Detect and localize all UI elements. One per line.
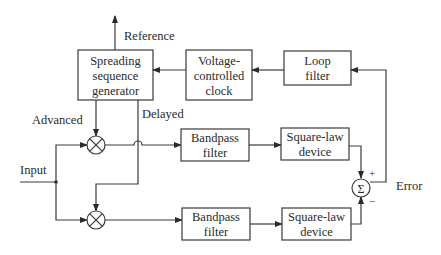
upper-square-law-device-block: Square-law device bbox=[281, 128, 349, 160]
delayed-wire bbox=[96, 100, 138, 211]
block-label: filter bbox=[305, 69, 330, 83]
advanced-label: Advanced bbox=[32, 113, 83, 127]
block-label: filter bbox=[203, 146, 228, 160]
loop-filter-block: Loop filter bbox=[284, 51, 351, 85]
block-label: filter bbox=[204, 225, 229, 239]
block-label: clock bbox=[205, 84, 233, 98]
delayed-label: Delayed bbox=[142, 107, 184, 121]
sigma-symbol: Σ bbox=[358, 182, 365, 196]
lower-square-to-sum bbox=[351, 197, 361, 224]
block-label: Bandpass bbox=[191, 131, 239, 145]
reference-output: Reference bbox=[115, 16, 175, 50]
block-label: generator bbox=[92, 84, 140, 98]
upper-mixer-to-bpf bbox=[105, 141, 181, 145]
lower-square-law-device-block: Square-law device bbox=[282, 208, 351, 240]
lower-multiplier-icon bbox=[87, 211, 105, 229]
plus-sign: + bbox=[369, 167, 375, 179]
upper-bandpass-filter-block: Bandpass filter bbox=[181, 129, 249, 161]
block-label: device bbox=[300, 225, 333, 239]
minus-sign: − bbox=[369, 195, 375, 207]
block-label: Spreading bbox=[90, 54, 141, 68]
error-feedback-wire bbox=[351, 70, 386, 182]
block-label: sequence bbox=[93, 69, 139, 83]
upper-multiplier-icon bbox=[87, 136, 105, 154]
reference-label: Reference bbox=[124, 29, 175, 43]
block-label: Voltage- bbox=[198, 54, 240, 68]
voltage-controlled-clock-block: Voltage- controlled clock bbox=[186, 50, 252, 100]
input-to-upper-mixer bbox=[56, 145, 87, 182]
input-label: Input bbox=[20, 163, 47, 177]
error-label: Error bbox=[396, 179, 423, 193]
block-label: controlled bbox=[194, 69, 245, 83]
spreading-sequence-generator-block: Spreading sequence generator bbox=[78, 50, 153, 100]
summing-junction-icon: Σ bbox=[352, 179, 370, 197]
block-label: Bandpass bbox=[192, 210, 240, 224]
block-label: device bbox=[299, 145, 332, 159]
block-label: Square-law bbox=[287, 130, 344, 144]
upper-square-to-sum bbox=[349, 146, 361, 178]
input-to-lower-mixer bbox=[56, 182, 87, 220]
block-label: Loop bbox=[304, 54, 330, 68]
block-label: Square-law bbox=[288, 210, 345, 224]
dll-block-diagram: Reference Spreading sequence generator V… bbox=[0, 0, 441, 255]
lower-bandpass-filter-block: Bandpass filter bbox=[182, 208, 250, 240]
